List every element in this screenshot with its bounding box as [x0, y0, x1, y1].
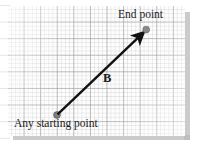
end-point-label: End point [118, 9, 163, 21]
end-point-dot [143, 26, 150, 33]
vector-diagram-figure: End point B Any starting point [0, 0, 197, 148]
start-point-label: Any starting point [14, 118, 98, 130]
vector-b-label: B [103, 72, 111, 85]
vector-b-arrow [58, 32, 145, 115]
